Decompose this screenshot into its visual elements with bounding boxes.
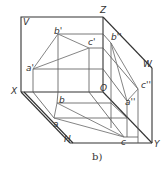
axis-label-w: W [143, 60, 152, 69]
point-label-a-prime: a' [26, 64, 34, 73]
point-label-c: c [121, 138, 126, 147]
axis-label-y: Y [154, 140, 160, 149]
point-label-c-double-prime: c'' [141, 81, 151, 90]
axis-label-o: O [100, 84, 107, 93]
point-label-a: a [53, 120, 59, 129]
point-label-b-double-prime: b'' [111, 33, 122, 42]
axis-label-h: H [64, 135, 71, 144]
axis-label-x: X [11, 87, 17, 96]
projection-diagram: V Z X O W H Y a' b' c' a'' b'' c'' a b c… [0, 0, 166, 172]
point-label-c-prime: c' [88, 38, 95, 47]
point-label-b-prime: b' [54, 27, 62, 36]
axis-label-v: V [23, 18, 29, 27]
axis-label-z: Z [100, 6, 106, 15]
point-label-a-double-prime: a'' [125, 98, 135, 107]
point-label-b: b [59, 96, 65, 105]
figure-caption: b) [92, 152, 102, 162]
